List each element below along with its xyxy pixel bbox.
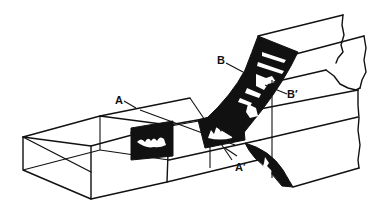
label-b-prime: B′ [287,88,298,100]
block-diagram: A B B′ A′ [0,0,385,220]
label-b: B [217,54,225,66]
section-b-band [205,36,298,140]
label-a: A [115,94,123,106]
section-a-panel [131,121,173,160]
lower-wedge [245,143,293,187]
label-a-prime: A′ [235,161,246,173]
